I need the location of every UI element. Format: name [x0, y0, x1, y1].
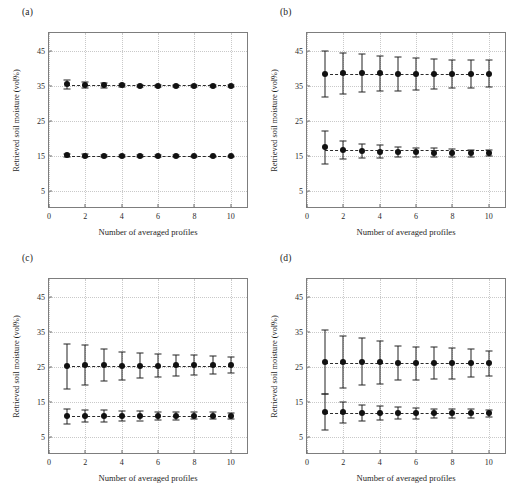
y-axis-label: Retrieved soil moisture (vol%) — [9, 32, 23, 208]
error-bar-cap — [467, 349, 474, 350]
error-bar-cap — [467, 417, 474, 418]
error-bar-cap — [82, 422, 89, 423]
x-tick-label: 6 — [414, 207, 418, 221]
gridline-vertical — [307, 279, 308, 453]
plot-area: 5152535450246810 — [306, 32, 506, 208]
error-bar-cap — [467, 377, 474, 378]
error-bar-cap — [431, 378, 438, 379]
gridline-horizontal — [307, 297, 505, 298]
data-point-marker — [119, 153, 125, 159]
series-trend-line — [325, 150, 489, 151]
error-bar-cap — [322, 130, 329, 131]
data-point-marker — [377, 410, 383, 416]
gridline-vertical — [194, 33, 195, 207]
gridline-horizontal — [49, 121, 247, 122]
data-point-marker — [395, 71, 401, 77]
y-tick-label: 25 — [37, 363, 49, 372]
error-bar-cap — [413, 347, 420, 348]
data-point-marker — [210, 413, 216, 419]
data-point-marker — [322, 71, 328, 77]
data-point-marker — [377, 359, 383, 365]
panel-label: (b) — [280, 7, 292, 17]
gridline-vertical — [122, 33, 123, 207]
error-bar-cap — [449, 348, 456, 349]
data-point-marker — [449, 360, 455, 366]
error-bar-cap — [376, 419, 383, 420]
series-trend-line — [325, 74, 489, 75]
data-point-marker — [101, 153, 107, 159]
error-bar-cap — [413, 147, 420, 148]
data-point-marker — [431, 410, 437, 416]
error-bar-cap — [155, 354, 162, 355]
y-tick-label: 45 — [295, 46, 307, 55]
y-tick-label: 25 — [295, 363, 307, 372]
data-point-marker — [173, 413, 179, 419]
data-point-marker — [413, 360, 419, 366]
error-bar-cap — [136, 378, 143, 379]
data-point-marker — [191, 413, 197, 419]
data-point-marker — [449, 150, 455, 156]
data-point-marker — [173, 362, 179, 368]
y-axis-label-text: Retrieved soil moisture (vol%) — [270, 315, 279, 418]
data-point-marker — [101, 413, 107, 419]
gridline-vertical — [49, 33, 50, 207]
error-bar-cap — [358, 385, 365, 386]
error-bar-cap — [340, 336, 347, 337]
error-bar-cap — [431, 347, 438, 348]
data-point-marker — [137, 363, 143, 369]
error-bar-cap — [100, 349, 107, 350]
error-bar-cap — [413, 379, 420, 380]
error-bar-cap — [358, 338, 365, 339]
data-point-marker — [119, 363, 125, 369]
x-axis-label: Number of averaged profiles — [306, 473, 506, 483]
gridline-horizontal — [49, 191, 247, 192]
y-tick-label: 15 — [37, 398, 49, 407]
x-tick-label: 6 — [414, 453, 418, 467]
y-tick-label: 45 — [295, 292, 307, 301]
data-point-marker — [413, 410, 419, 416]
error-bar-cap — [376, 91, 383, 92]
x-tick-label: 0 — [47, 453, 51, 467]
data-point-marker — [340, 70, 346, 76]
y-tick-label: 5 — [41, 187, 49, 196]
gridline-horizontal — [307, 402, 505, 403]
x-tick-label: 6 — [156, 453, 160, 467]
error-bar-cap — [413, 156, 420, 157]
x-tick-label: 6 — [156, 207, 160, 221]
gridline-vertical — [85, 33, 86, 207]
error-bar-cap — [358, 92, 365, 93]
error-bar-cap — [173, 375, 180, 376]
data-point-marker — [486, 410, 492, 416]
error-bar-cap — [394, 345, 401, 346]
data-point-marker — [228, 153, 234, 159]
error-bar-cap — [485, 60, 492, 61]
plot-area: 5152535450246810 — [306, 278, 506, 454]
error-bar-cap — [82, 345, 89, 346]
gridline-horizontal — [49, 332, 247, 333]
y-tick-label: 5 — [299, 187, 307, 196]
data-point-marker — [486, 71, 492, 77]
error-bar-cap — [136, 420, 143, 421]
gridline-horizontal — [307, 156, 505, 157]
data-point-marker — [377, 70, 383, 76]
error-bar-cap — [136, 352, 143, 353]
error-bar-cap — [64, 343, 71, 344]
series-trend-line — [67, 416, 231, 417]
data-point-marker — [64, 413, 70, 419]
data-point-marker — [137, 413, 143, 419]
error-bar-cap — [64, 388, 71, 389]
data-point-marker — [173, 83, 179, 89]
data-point-marker — [395, 360, 401, 366]
data-point-marker — [155, 153, 161, 159]
y-tick-label: 35 — [295, 81, 307, 90]
data-point-marker — [155, 413, 161, 419]
data-point-marker — [191, 362, 197, 368]
data-point-marker — [359, 410, 365, 416]
x-tick-label: 8 — [450, 207, 454, 221]
error-bar-cap — [340, 388, 347, 389]
gridline-horizontal — [49, 297, 247, 298]
error-bar-cap — [394, 157, 401, 158]
gridline-vertical — [49, 279, 50, 453]
gridline-horizontal — [49, 51, 247, 52]
y-tick-label: 35 — [37, 81, 49, 90]
